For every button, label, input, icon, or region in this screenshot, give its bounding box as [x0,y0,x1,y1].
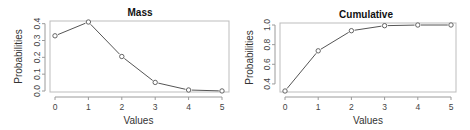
data-point [283,89,287,93]
y-tick-label: 0.4 [262,78,272,90]
y-tick-label: 0.0 [32,85,42,97]
data-point [416,23,420,27]
data-point [449,23,453,27]
data-line-segment [287,53,316,88]
plot-frame [50,21,229,92]
chart-cumulative: Cumulative012345Values0.40.60.81.0Probab… [244,9,456,126]
y-axis-label: Probabilities [244,30,255,84]
y-tick-label: 0.2 [32,51,42,63]
x-axis-label: Values [353,115,383,126]
charts-canvas: Mass012345Values0.00.10.20.30.4Probabili… [0,0,470,130]
data-point [153,80,157,84]
data-point [120,54,124,58]
plot-frame [280,23,456,92]
data-line-segment [58,23,85,34]
x-tick-label: 1 [316,102,321,112]
y-tick-label: 1.0 [262,19,272,31]
y-tick-label: 0.3 [32,34,42,46]
x-axis-label: Values [124,115,154,126]
x-tick-label: 5 [220,102,225,112]
data-point [86,20,90,24]
data-line-segment [91,24,120,54]
x-tick-label: 0 [53,102,58,112]
data-point [53,34,57,38]
x-tick-label: 4 [415,102,420,112]
data-line-segment [158,83,185,89]
x-tick-label: 3 [382,102,387,112]
x-tick-label: 5 [449,102,454,112]
y-tick-label: 0.8 [262,38,272,50]
data-point [382,23,386,27]
y-axis-label: Probabilities [13,29,24,83]
x-tick-label: 2 [349,102,354,112]
data-line-segment [355,26,382,30]
data-point [349,28,353,32]
data-line-segment [388,25,415,26]
chart-title: Cumulative [339,9,393,20]
data-point [186,88,190,92]
x-tick-label: 3 [153,102,158,112]
data-line-segment [124,58,152,80]
y-tick-label: 0.6 [262,58,272,70]
y-tick-label: 0.1 [32,68,42,80]
y-tick-label: 0.4 [32,18,42,30]
data-line-segment [321,32,349,49]
x-tick-label: 4 [186,102,191,112]
x-tick-label: 1 [86,102,91,112]
x-tick-label: 0 [283,102,288,112]
data-line-segment [192,90,219,91]
chart-title: Mass [127,7,152,18]
chart-mass: Mass012345Values0.00.10.20.30.4Probabili… [13,7,229,126]
x-tick-label: 2 [119,102,124,112]
data-point [220,89,224,93]
data-point [316,49,320,53]
